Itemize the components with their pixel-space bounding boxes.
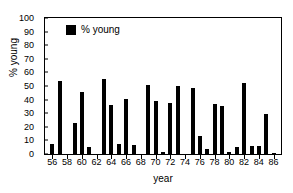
x-axis-tick-mark bbox=[200, 155, 201, 159]
bar bbox=[198, 136, 202, 154]
x-axis: 56586062646668707274767880828486 bbox=[44, 157, 282, 171]
x-axis-tick-mark bbox=[170, 155, 171, 159]
bar bbox=[257, 146, 261, 154]
x-axis-tick-mark bbox=[185, 155, 186, 159]
x-axis-tick-mark bbox=[259, 155, 260, 159]
x-axis-tick-mark bbox=[97, 155, 98, 159]
bar bbox=[264, 114, 268, 154]
x-axis-tick-mark bbox=[156, 155, 157, 159]
bar bbox=[272, 153, 276, 154]
bar bbox=[205, 149, 209, 154]
bar bbox=[117, 144, 121, 154]
bar bbox=[80, 92, 84, 154]
bar bbox=[146, 85, 150, 154]
bar-series bbox=[45, 18, 281, 154]
y-axis-tick-mark bbox=[44, 126, 48, 127]
y-axis-tick-label: 30 bbox=[24, 109, 34, 118]
x-axis-tick-mark bbox=[52, 155, 53, 159]
y-axis-tick-label: 0 bbox=[29, 150, 34, 159]
bar bbox=[102, 79, 106, 154]
chart-figure: 0102030405060708090100 % young 565860626… bbox=[0, 0, 293, 193]
y-axis-tick-mark bbox=[44, 154, 48, 155]
x-axis-tick-mark bbox=[274, 155, 275, 159]
bar bbox=[58, 81, 62, 154]
y-axis-tick-label: 40 bbox=[24, 95, 34, 104]
bar bbox=[191, 88, 195, 154]
bar bbox=[176, 86, 180, 154]
y-axis-tick-mark bbox=[44, 140, 48, 141]
x-axis-tick-mark bbox=[126, 155, 127, 159]
x-axis-tick-mark bbox=[82, 155, 83, 159]
y-axis-tick-label: 100 bbox=[19, 14, 34, 23]
y-axis-tick-label: 70 bbox=[24, 54, 34, 63]
chart-legend: % young bbox=[66, 24, 120, 35]
bar bbox=[235, 147, 239, 154]
y-axis-tick-mark bbox=[44, 86, 48, 87]
x-axis-tick-mark bbox=[244, 155, 245, 159]
y-axis-tick-label: 90 bbox=[24, 27, 34, 36]
x-axis-tick-mark bbox=[215, 155, 216, 159]
bar bbox=[50, 144, 54, 154]
x-axis-title: year bbox=[44, 173, 282, 184]
bar bbox=[168, 103, 172, 154]
y-axis-tick-label: 80 bbox=[24, 41, 34, 50]
y-axis-tick-mark bbox=[44, 31, 48, 32]
bar bbox=[161, 152, 165, 154]
y-axis-tick-label: 50 bbox=[24, 82, 34, 91]
bar bbox=[213, 104, 217, 154]
y-axis-tick-label: 60 bbox=[24, 68, 34, 77]
x-axis-tick-mark bbox=[229, 155, 230, 159]
y-axis-tick-mark bbox=[44, 72, 48, 73]
legend-swatch-percent-young bbox=[66, 25, 76, 35]
y-axis-tick-label: 10 bbox=[24, 136, 34, 145]
bar bbox=[109, 105, 113, 154]
bar bbox=[124, 99, 128, 154]
bar bbox=[87, 147, 91, 154]
y-axis-title: % young bbox=[8, 23, 19, 93]
y-axis-tick-mark bbox=[44, 45, 48, 46]
bar bbox=[227, 152, 231, 154]
y-axis-tick-label: 20 bbox=[24, 122, 34, 131]
bar bbox=[73, 123, 77, 154]
bar bbox=[154, 101, 158, 154]
bar bbox=[220, 106, 224, 154]
bar bbox=[242, 83, 246, 154]
bar bbox=[132, 145, 136, 154]
y-axis-tick-mark bbox=[44, 58, 48, 59]
y-axis: 0102030405060708090100 bbox=[0, 17, 40, 155]
x-axis-tick-mark bbox=[111, 155, 112, 159]
y-axis-tick-mark bbox=[44, 18, 48, 19]
bar bbox=[250, 146, 254, 154]
y-axis-tick-mark bbox=[44, 99, 48, 100]
y-axis-tick-mark bbox=[44, 113, 48, 114]
x-axis-tick-mark bbox=[67, 155, 68, 159]
x-axis-tick-mark bbox=[141, 155, 142, 159]
legend-label-percent-young: % young bbox=[81, 24, 120, 35]
